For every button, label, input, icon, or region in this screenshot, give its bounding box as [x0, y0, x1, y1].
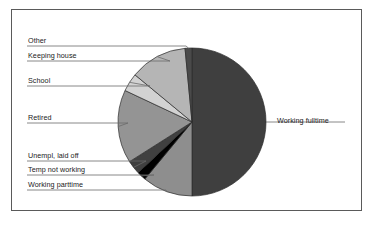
pie-slice [192, 48, 266, 196]
leader-line [27, 46, 189, 48]
leader-line [27, 190, 167, 192]
leader-line [27, 123, 128, 127]
leader-line [27, 175, 154, 176]
pie-slice-group [118, 48, 266, 196]
callout-label-school: School [28, 77, 50, 85]
callout-label-retired: Retired [28, 114, 52, 122]
pie-chart-figure: Other Keeping house School Retired Unemp… [0, 0, 380, 234]
callout-label-working-parttime: Working parttime [28, 181, 83, 189]
callout-label-other: Other [28, 37, 46, 45]
callout-label-temp-not-working: Temp not working [28, 166, 85, 174]
callout-label-keeping-house: Keeping house [28, 52, 77, 60]
callout-label-unempl-laid-off: Unempl, laid off [28, 152, 79, 160]
callout-label-working-fulltime: Working fulltime [277, 117, 329, 125]
